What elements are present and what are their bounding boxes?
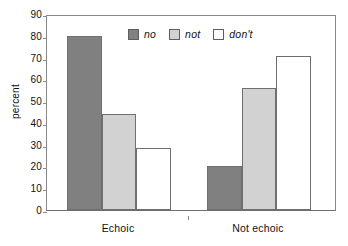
- y-tick-mark: [43, 103, 47, 104]
- legend-swatch-icon: [169, 29, 180, 40]
- y-tick-mark: [43, 212, 47, 213]
- x-axis-separator-tick: [188, 216, 189, 220]
- legend-item: no: [128, 28, 156, 40]
- bar: [67, 36, 102, 210]
- legend-label: don't: [229, 28, 252, 40]
- y-tick-label: 80: [18, 32, 42, 42]
- y-tick-label: 30: [18, 141, 42, 151]
- legend-swatch-icon: [128, 29, 139, 40]
- legend-item: not: [169, 28, 200, 40]
- y-tick-mark: [43, 190, 47, 191]
- bar-chart: percent 0102030405060708090 EchoicNot ec…: [0, 0, 348, 246]
- x-tick-label: Not echoic: [198, 222, 318, 234]
- y-tick-mark: [43, 81, 47, 82]
- legend-item: don't: [213, 28, 252, 40]
- legend: nonotdon't: [128, 28, 253, 40]
- y-tick-mark: [43, 60, 47, 61]
- bar: [207, 166, 242, 210]
- plot-area: [46, 15, 336, 211]
- legend-label: no: [144, 28, 156, 40]
- bar: [276, 56, 311, 210]
- y-tick-label: 70: [18, 54, 42, 64]
- bar: [102, 114, 137, 210]
- y-tick-label: 0: [18, 206, 42, 216]
- x-axis-tick-labels: EchoicNot echoic: [46, 216, 336, 236]
- y-tick-mark: [43, 168, 47, 169]
- y-tick-label: 50: [18, 97, 42, 107]
- y-tick-mark: [43, 125, 47, 126]
- y-tick-mark: [43, 147, 47, 148]
- legend-swatch-icon: [213, 29, 224, 40]
- y-tick-mark: [43, 38, 47, 39]
- y-tick-label: 90: [18, 10, 42, 20]
- legend-label: not: [185, 28, 200, 40]
- y-tick-label: 20: [18, 162, 42, 172]
- y-tick-label: 60: [18, 75, 42, 85]
- y-tick-label: 10: [18, 184, 42, 194]
- bars-layer: [47, 16, 335, 210]
- x-tick-label: Echoic: [58, 222, 178, 234]
- bar: [242, 88, 277, 210]
- y-axis-tick-labels: 0102030405060708090: [18, 15, 42, 211]
- bar: [136, 148, 171, 210]
- y-tick-label: 40: [18, 119, 42, 129]
- y-tick-mark: [43, 16, 47, 17]
